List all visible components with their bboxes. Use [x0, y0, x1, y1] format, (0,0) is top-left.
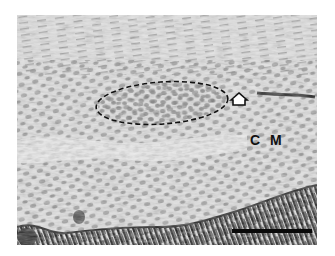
region-label: C M	[250, 133, 285, 147]
scale-bar	[232, 229, 312, 233]
tissue-texture	[17, 15, 317, 245]
histology-micrograph	[17, 15, 317, 245]
